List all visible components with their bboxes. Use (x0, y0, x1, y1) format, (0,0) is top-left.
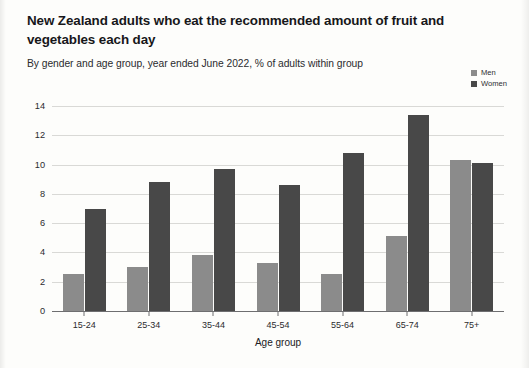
bar-women-75+[interactable] (472, 163, 493, 311)
bar-men-55-64[interactable] (321, 274, 342, 311)
x-tick-45-54 (278, 311, 279, 316)
x-tick-15-24 (84, 311, 85, 316)
chart-page: New Zealand adults who eat the recommend… (0, 0, 529, 368)
bar-group-15-24: 15-24 (52, 106, 117, 311)
bar-group-25-34: 25-34 (117, 106, 182, 311)
bar-men-65-74[interactable] (386, 236, 407, 311)
bar-group-65-74: 65-74 (375, 106, 440, 311)
legend-swatch-women (471, 81, 477, 87)
bar-group-75+: 75+ (439, 106, 504, 311)
y-tick-label-4: 4 (40, 247, 45, 257)
y-tick-label-10: 10 (35, 160, 45, 170)
y-tick-label-2: 2 (40, 277, 45, 287)
bar-chart: 02468101214 15-2425-3435-4445-5455-6465-… (0, 0, 529, 368)
x-tick-75+ (471, 311, 472, 316)
plot-area: 02468101214 15-2425-3435-4445-5455-6465-… (52, 106, 504, 311)
y-tick-label-12: 12 (35, 130, 45, 140)
legend-item-men[interactable]: Men (471, 69, 507, 77)
legend-item-women[interactable]: Women (471, 80, 507, 88)
bar-women-15-24[interactable] (85, 209, 106, 312)
bar-men-75+[interactable] (450, 160, 471, 311)
x-tick-label-65-74: 65-74 (396, 320, 419, 330)
bar-women-65-74[interactable] (408, 115, 429, 311)
bar-men-15-24[interactable] (63, 274, 84, 311)
y-tick-label-8: 8 (40, 189, 45, 199)
bar-group-45-54: 45-54 (246, 106, 311, 311)
bar-groups: 15-2425-3435-4445-5455-6465-7475+ (52, 106, 504, 311)
x-tick-label-35-44: 35-44 (202, 320, 225, 330)
y-tick-label-0: 0 (40, 306, 45, 316)
x-tick-label-15-24: 15-24 (73, 320, 96, 330)
x-tick-55-64 (342, 311, 343, 316)
x-tick-label-55-64: 55-64 (331, 320, 354, 330)
bar-men-45-54[interactable] (257, 263, 278, 311)
bar-women-55-64[interactable] (343, 153, 364, 311)
x-tick-35-44 (213, 311, 214, 316)
legend-label-women: Women (481, 80, 507, 88)
bar-women-35-44[interactable] (214, 169, 235, 311)
bar-women-25-34[interactable] (149, 182, 170, 311)
legend-swatch-men (471, 70, 477, 76)
x-tick-label-45-54: 45-54 (267, 320, 290, 330)
x-tick-65-74 (407, 311, 408, 316)
bar-group-55-64: 55-64 (310, 106, 375, 311)
x-tick-25-34 (148, 311, 149, 316)
bar-men-35-44[interactable] (192, 255, 213, 311)
bar-men-25-34[interactable] (127, 267, 148, 311)
x-axis-title: Age group (52, 337, 504, 348)
x-tick-label-25-34: 25-34 (137, 320, 160, 330)
y-tick-label-6: 6 (40, 218, 45, 228)
legend-label-men: Men (481, 69, 496, 77)
chart-legend: Men Women (471, 69, 507, 88)
y-tick-label-14: 14 (35, 101, 45, 111)
x-tick-label-75+: 75+ (464, 320, 479, 330)
bar-group-35-44: 35-44 (181, 106, 246, 311)
bar-women-45-54[interactable] (279, 185, 300, 311)
